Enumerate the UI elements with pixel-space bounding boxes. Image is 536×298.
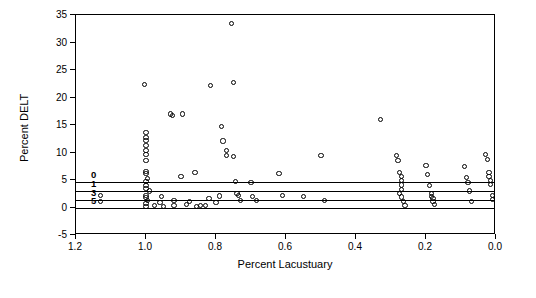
data-point bbox=[402, 203, 407, 208]
data-point bbox=[208, 83, 213, 88]
data-point bbox=[280, 193, 285, 198]
x-tick bbox=[495, 234, 496, 239]
data-point bbox=[318, 153, 323, 158]
y-tick-label: 15 bbox=[45, 119, 67, 130]
data-point bbox=[143, 204, 148, 209]
x-tick bbox=[355, 234, 356, 239]
y-tick bbox=[70, 152, 75, 153]
y-tick bbox=[70, 207, 75, 208]
y-tick bbox=[70, 69, 75, 70]
data-point bbox=[159, 194, 164, 199]
data-point bbox=[143, 152, 148, 157]
data-point bbox=[395, 158, 400, 163]
data-point bbox=[254, 198, 259, 203]
data-point bbox=[322, 198, 327, 203]
data-point bbox=[423, 163, 428, 168]
data-point bbox=[143, 158, 148, 163]
y-tick bbox=[70, 14, 75, 15]
data-point bbox=[229, 21, 234, 26]
data-point bbox=[378, 117, 383, 122]
x-tick-label: 0.8 bbox=[208, 241, 222, 252]
data-point bbox=[425, 172, 430, 177]
data-point bbox=[465, 180, 470, 185]
y-tick-label: 35 bbox=[45, 9, 67, 20]
data-point bbox=[180, 111, 185, 116]
data-point bbox=[142, 82, 147, 87]
x-tick-label: 1.0 bbox=[138, 241, 152, 252]
data-point bbox=[217, 193, 222, 198]
x-axis-label: Percent Lacustuary bbox=[238, 258, 333, 270]
data-point bbox=[233, 179, 238, 184]
data-point bbox=[224, 148, 229, 153]
reference-line-label-5: 5 bbox=[91, 196, 96, 206]
data-point bbox=[219, 124, 224, 129]
data-point bbox=[161, 204, 166, 209]
data-point bbox=[467, 188, 472, 193]
scatter-chart-figure: Percent DELT Percent Lacustuary 01351.21… bbox=[0, 0, 536, 298]
x-tick bbox=[215, 234, 216, 239]
x-tick bbox=[425, 234, 426, 239]
y-tick-label: 5 bbox=[45, 174, 67, 185]
data-point bbox=[469, 199, 474, 204]
data-point bbox=[213, 200, 218, 205]
x-tick-label: 0.2 bbox=[418, 241, 432, 252]
data-point bbox=[187, 199, 192, 204]
data-point bbox=[485, 157, 490, 162]
data-point bbox=[427, 183, 432, 188]
y-tick bbox=[70, 42, 75, 43]
plot-area bbox=[76, 15, 494, 233]
data-point bbox=[432, 202, 437, 207]
y-tick bbox=[70, 97, 75, 98]
y-tick bbox=[70, 234, 75, 235]
data-point bbox=[220, 138, 225, 143]
y-tick bbox=[70, 124, 75, 125]
data-point bbox=[488, 182, 493, 187]
y-tick-label: 20 bbox=[45, 91, 67, 102]
y-tick-label: 10 bbox=[45, 146, 67, 157]
y-tick-label: -5 bbox=[45, 229, 67, 240]
data-point bbox=[98, 199, 103, 204]
data-point bbox=[231, 80, 236, 85]
data-point bbox=[192, 170, 197, 175]
data-point bbox=[231, 154, 236, 159]
reference-line-5 bbox=[76, 208, 494, 209]
plot-frame bbox=[75, 14, 495, 234]
data-point bbox=[98, 193, 103, 198]
x-tick bbox=[75, 234, 76, 239]
x-tick-label: 0.6 bbox=[278, 241, 292, 252]
y-tick bbox=[70, 179, 75, 180]
y-axis-label: Percent DELT bbox=[18, 94, 30, 162]
y-tick-label: 30 bbox=[45, 36, 67, 47]
data-point bbox=[178, 174, 183, 179]
data-point bbox=[462, 164, 467, 169]
data-point bbox=[224, 153, 229, 158]
y-tick-label: 0 bbox=[45, 201, 67, 212]
y-tick-label: 25 bbox=[45, 64, 67, 75]
data-point bbox=[276, 171, 281, 176]
x-tick bbox=[145, 234, 146, 239]
data-point bbox=[248, 180, 253, 185]
x-tick-label: 1.2 bbox=[68, 241, 82, 252]
data-point bbox=[206, 196, 211, 201]
data-point bbox=[238, 198, 243, 203]
data-point bbox=[490, 197, 494, 202]
data-point bbox=[143, 171, 148, 176]
x-tick-label: 0.0 bbox=[488, 241, 502, 252]
data-point bbox=[170, 113, 175, 118]
x-tick bbox=[285, 234, 286, 239]
data-point bbox=[301, 194, 306, 199]
x-tick-label: 0.4 bbox=[348, 241, 362, 252]
